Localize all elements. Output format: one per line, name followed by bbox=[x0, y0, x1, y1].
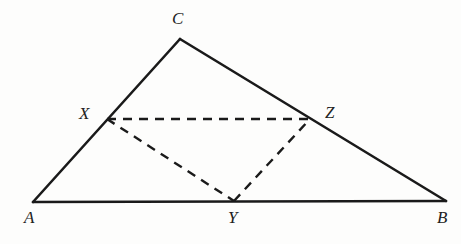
point-label-c: C bbox=[172, 10, 183, 27]
point-label-a: A bbox=[24, 209, 34, 226]
segment-yz-dashed bbox=[234, 119, 310, 201]
figure-canvas: A B C X Y Z bbox=[0, 0, 461, 244]
point-label-x: X bbox=[79, 105, 89, 122]
dashed-segments bbox=[107, 119, 310, 201]
point-label-c-text: C bbox=[172, 10, 183, 27]
point-label-a-text: A bbox=[24, 209, 34, 226]
point-label-b: B bbox=[437, 209, 447, 226]
segment-ac bbox=[33, 39, 180, 202]
triangle-outline bbox=[33, 39, 446, 202]
point-label-z-text: Z bbox=[325, 104, 334, 121]
segment-xy-dashed bbox=[107, 119, 234, 201]
segment-ab bbox=[33, 201, 446, 202]
point-label-b-text: B bbox=[437, 209, 447, 226]
point-label-x-text: X bbox=[79, 105, 89, 122]
point-label-y: Y bbox=[228, 209, 237, 226]
point-label-y-text: Y bbox=[228, 209, 237, 226]
point-label-z: Z bbox=[325, 104, 334, 121]
